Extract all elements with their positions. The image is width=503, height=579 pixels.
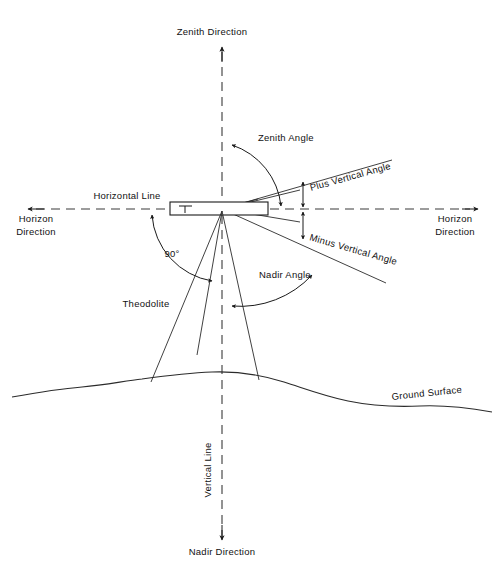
label-plus-vertical-angle: Plus Vertical Angle bbox=[309, 160, 392, 193]
label-zenith-angle: Zenith Angle bbox=[258, 132, 314, 143]
label-horizon-direction-right-line2: Direction bbox=[435, 226, 475, 237]
labels-group: Zenith Direction Zenith Angle Horizontal… bbox=[16, 26, 475, 557]
label-zenith-direction: Zenith Direction bbox=[177, 26, 248, 37]
sight-lines-group bbox=[222, 160, 392, 283]
label-right-angle: 90° bbox=[164, 248, 179, 259]
theodolite-body-group bbox=[170, 202, 268, 215]
diagram-canvas: Zenith Direction Zenith Angle Horizontal… bbox=[0, 0, 503, 579]
tripod-leg-center bbox=[197, 211, 222, 355]
theodolite-vertical-angle-diagram: Zenith Direction Zenith Angle Horizontal… bbox=[0, 0, 503, 579]
label-horizontal-line: Horizontal Line bbox=[93, 190, 160, 201]
label-ground-surface: Ground Surface bbox=[391, 384, 462, 402]
label-minus-vertical-angle: Minus Vertical Angle bbox=[308, 231, 398, 267]
right-angle-arc bbox=[152, 215, 212, 281]
tripod-leg-left bbox=[151, 211, 222, 382]
label-horizon-direction-right-line1: Horizon bbox=[438, 213, 473, 224]
label-theodolite: Theodolite bbox=[123, 298, 170, 309]
label-nadir-angle: Nadir Angle bbox=[259, 269, 311, 280]
label-nadir-direction: Nadir Direction bbox=[189, 546, 256, 557]
tripod-group bbox=[151, 211, 259, 382]
angle-arcs-group bbox=[152, 145, 312, 306]
tripod-leg-right bbox=[222, 211, 259, 380]
label-horizon-direction-left-line1: Horizon bbox=[19, 213, 54, 224]
label-vertical-line: Vertical Line bbox=[202, 442, 213, 497]
label-horizon-direction-left-line2: Direction bbox=[16, 226, 56, 237]
